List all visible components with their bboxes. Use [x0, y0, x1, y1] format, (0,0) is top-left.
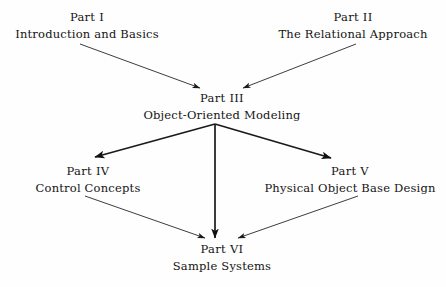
- edge-part-v-to-part-vi: [238, 196, 358, 238]
- node-part-label: Part V: [264, 166, 435, 178]
- node-part-label: Part VI: [173, 244, 271, 256]
- node-part-i: Part I Introduction and Basics: [15, 12, 159, 40]
- edge-part-ii-to-part-iii: [243, 44, 356, 88]
- node-title-label: Sample Systems: [173, 261, 271, 273]
- node-title-label: Object-Oriented Modeling: [143, 110, 300, 122]
- edge-part-iv-to-part-vi: [85, 196, 205, 238]
- node-title-label: The Relational Approach: [278, 29, 427, 41]
- node-title-label: Introduction and Basics: [15, 29, 159, 41]
- diagram-canvas: Part I Introduction and Basics Part II T…: [0, 0, 446, 287]
- node-part-ii: Part II The Relational Approach: [278, 12, 427, 40]
- node-part-vi: Part VI Sample Systems: [173, 244, 271, 272]
- edge-part-iii-to-part-iv: [95, 124, 215, 157]
- node-part-iv: Part IV Control Concepts: [36, 166, 141, 194]
- node-part-v: Part V Physical Object Base Design: [264, 166, 435, 194]
- node-part-label: Part II: [278, 12, 427, 24]
- edge-part-iii-to-part-v: [215, 124, 331, 158]
- edge-part-i-to-part-iii: [80, 44, 200, 88]
- node-part-label: Part III: [143, 93, 300, 105]
- node-part-label: Part I: [15, 12, 159, 24]
- node-title-label: Control Concepts: [36, 183, 141, 195]
- node-title-label: Physical Object Base Design: [264, 183, 435, 195]
- node-part-iii: Part III Object-Oriented Modeling: [143, 93, 300, 121]
- node-part-label: Part IV: [36, 166, 141, 178]
